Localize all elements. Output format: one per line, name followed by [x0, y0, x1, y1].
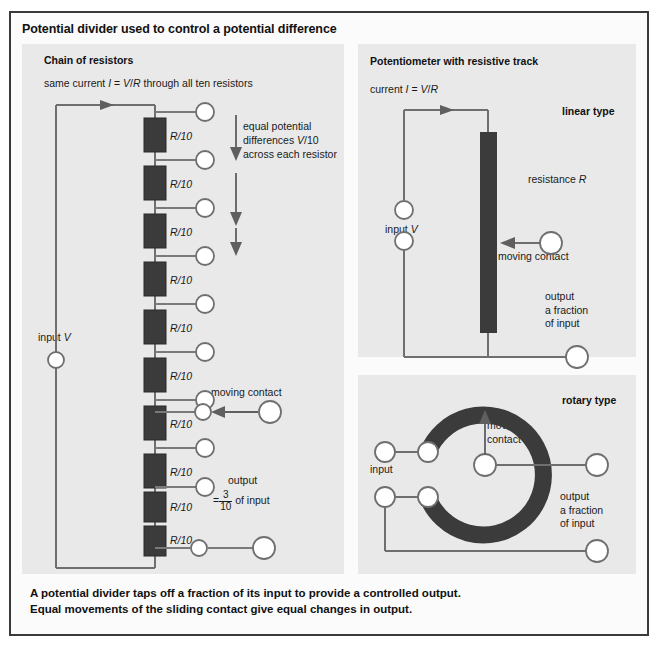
diagram-card: Potential divider used to control a pote…	[0, 0, 658, 647]
rotary-output-terminal[interactable]	[586, 540, 608, 562]
rotary-input-terminal-bottom[interactable]	[375, 487, 395, 507]
rotary-input-terminal-top[interactable]	[375, 442, 395, 462]
rotary-hub[interactable]	[474, 454, 496, 476]
rotary-circuit-svg	[0, 0, 658, 647]
rotary-ring-terminal-top[interactable]	[418, 442, 438, 462]
caption-line-1: A potential divider taps off a fraction …	[30, 586, 630, 602]
caption: A potential divider taps off a fraction …	[30, 586, 630, 617]
rotary-ring-terminal-bottom[interactable]	[418, 487, 438, 507]
caption-line-2: Equal movements of the sliding contact g…	[30, 602, 630, 618]
rotary-wiper-terminal[interactable]	[586, 454, 608, 476]
